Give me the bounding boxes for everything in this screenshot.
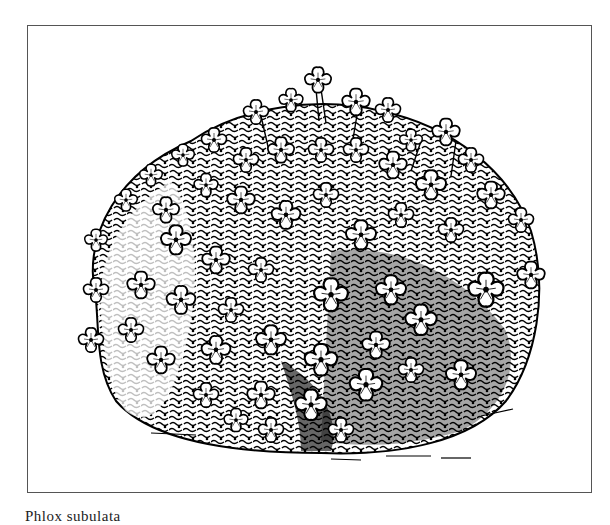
flower-cushion-illustration (28, 26, 592, 493)
illustration-frame (27, 25, 592, 493)
figure-caption: Phlox subulata (25, 508, 121, 525)
